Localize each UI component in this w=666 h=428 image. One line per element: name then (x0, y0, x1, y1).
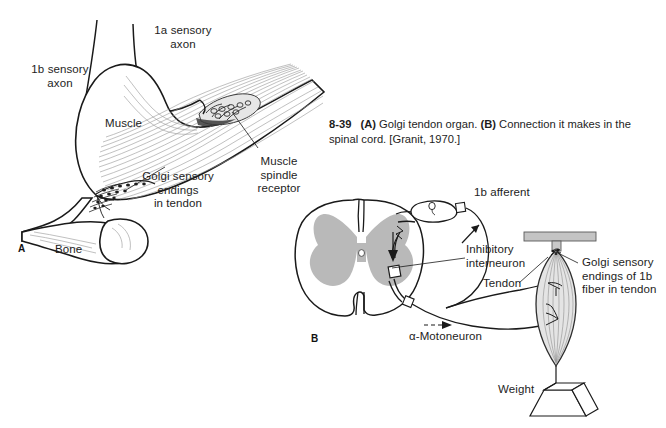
label-inhibitory-interneuron: Inhibitory interneuron (466, 243, 542, 270)
figure-root: 8-39(A) Golgi tendon organ. (B) Connecti… (0, 0, 666, 428)
label-1b-afferent: 1b afferent (474, 186, 560, 200)
label-golgi-sensory-endings-of-1b-fiber: Golgi sensory endings of 1b fiber in ten… (582, 256, 666, 297)
figure-caption: 8-39(A) Golgi tendon organ. (B) Connecti… (329, 117, 649, 146)
label-muscle-spindle-receptor: Muscle spindle receptor (248, 155, 310, 196)
motoneuron-direction-arrow (424, 321, 452, 329)
panel-letter-a: A (18, 243, 25, 254)
label-golgi-sensory-endings-in-tendon: Golgi sensory endings in tendon (128, 170, 228, 211)
panel-a-artwork (22, 20, 324, 264)
central-canal (359, 250, 365, 257)
label-weight: Weight (498, 383, 552, 397)
afferent-direction-arrow (462, 225, 479, 243)
panel-b-artwork (295, 199, 598, 416)
muscle-b-shape (536, 250, 576, 366)
label-alpha-motoneuron: α-Motoneuron (409, 330, 499, 344)
dorsal-root-ganglion (411, 201, 457, 222)
label-tendon: Tendon (483, 277, 537, 291)
label-1a-sensory-axon: 1a sensory axon (141, 24, 225, 51)
label-bone: Bone (55, 243, 105, 257)
caption-a-text: Golgi tendon organ. (376, 118, 481, 130)
figure-number: 8-39 (329, 118, 351, 130)
label-muscle: Muscle (105, 117, 165, 131)
caption-a-marker: (A) (360, 118, 376, 130)
afferent-terminal-box (455, 202, 465, 212)
label-1b-sensory-axon: 1b sensory axon (16, 63, 104, 90)
panel-letter-b: B (311, 333, 318, 344)
caption-b-marker: (B) (480, 118, 496, 130)
